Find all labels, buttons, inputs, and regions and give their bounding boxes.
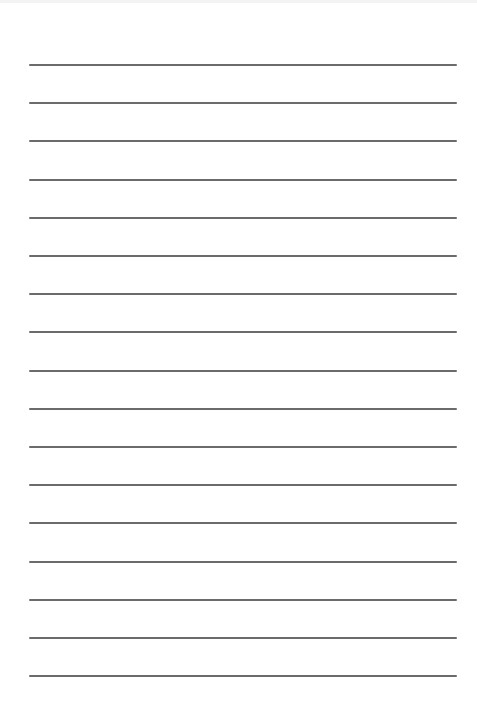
ruled-line (29, 255, 457, 257)
ruled-line (29, 293, 457, 295)
ruled-line (29, 408, 457, 410)
ruled-line (29, 561, 457, 563)
ruled-line (29, 522, 457, 524)
ruled-line (29, 484, 457, 486)
ruled-line (29, 217, 457, 219)
ruled-line (29, 140, 457, 142)
ruled-line (29, 370, 457, 372)
ruled-line (29, 331, 457, 333)
ruled-line (29, 446, 457, 448)
ruled-line (29, 102, 457, 104)
ruled-line (29, 675, 457, 677)
lined-paper-sheet (0, 0, 477, 718)
ruled-line (29, 599, 457, 601)
ruled-line (29, 179, 457, 181)
ruled-line (29, 64, 457, 66)
ruled-line (29, 637, 457, 639)
